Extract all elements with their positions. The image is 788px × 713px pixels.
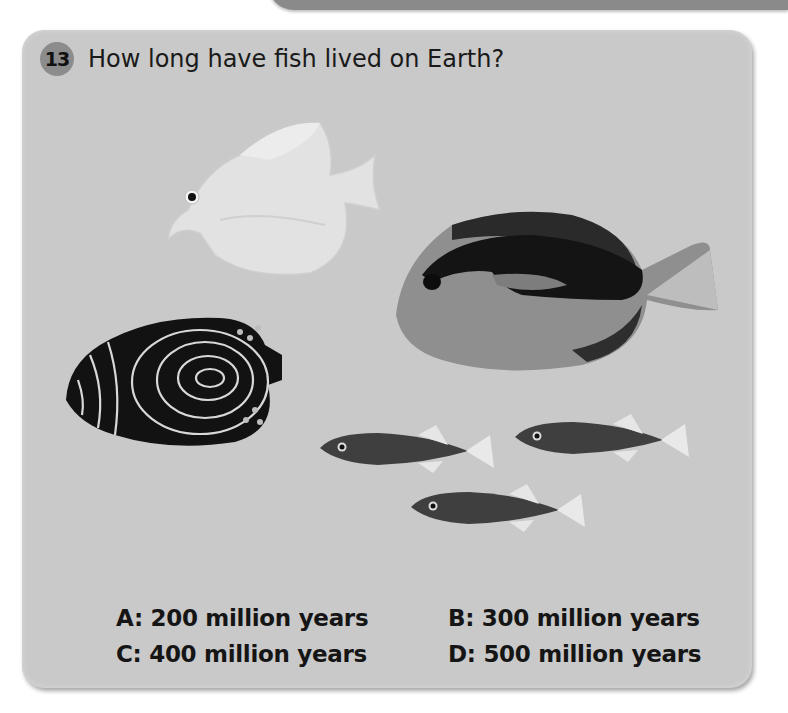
stickleback-fish-2-icon	[513, 412, 693, 467]
pale-tang-fish-icon	[160, 115, 400, 280]
answer-option-c[interactable]: C: 400 million years	[116, 641, 448, 667]
answer-option-b[interactable]: B: 300 million years	[448, 605, 738, 631]
emperor-angelfish-icon	[60, 310, 285, 450]
answer-options: A: 200 million years B: 300 million year…	[116, 605, 736, 667]
quiz-question-card: 13 How long have fish lived on Earth?	[22, 30, 752, 688]
stickleback-fish-3-icon	[409, 482, 589, 537]
question-text: How long have fish lived on Earth?	[88, 45, 504, 73]
page-header-bar	[268, 0, 788, 10]
answer-option-a[interactable]: A: 200 million years	[116, 605, 448, 631]
question-number-badge: 13	[40, 42, 74, 76]
question-header: 13 How long have fish lived on Earth?	[40, 42, 504, 76]
stickleback-fish-1-icon	[318, 423, 498, 478]
answer-option-d[interactable]: D: 500 million years	[448, 641, 738, 667]
striped-tang-fish-icon	[392, 200, 722, 380]
